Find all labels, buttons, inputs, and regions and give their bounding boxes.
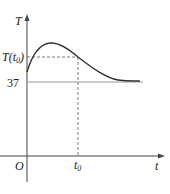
- x-axis-arrow-icon: [158, 154, 165, 159]
- origin-label: O: [15, 159, 24, 173]
- temperature-curve: [27, 43, 140, 81]
- baseline-value-label: 37: [7, 76, 19, 90]
- x-axis-label: t: [155, 159, 159, 173]
- t0-label: t0: [74, 158, 81, 173]
- temperature-graph: T T(t0) 37 O t0 t: [0, 0, 170, 194]
- y-axis-label: T: [15, 14, 23, 28]
- y-axis-arrow-icon: [25, 14, 30, 21]
- T-t0-label: T(t0): [2, 50, 24, 65]
